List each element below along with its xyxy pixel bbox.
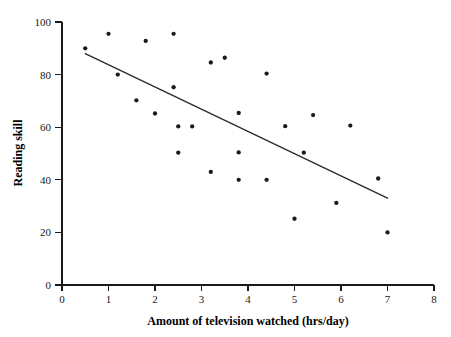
- data-point: [171, 32, 175, 36]
- data-point: [376, 176, 380, 180]
- data-point: [153, 111, 157, 115]
- x-tick-label-1: 1: [106, 293, 112, 305]
- y-tick-label-60: 60: [40, 121, 52, 133]
- y-tick-label-80: 80: [40, 69, 52, 81]
- data-point: [334, 201, 338, 205]
- data-point: [311, 113, 315, 117]
- x-tick-label-7: 7: [385, 293, 391, 305]
- x-tick-label-3: 3: [199, 293, 205, 305]
- plot-canvas: 100 80 60 40 20 0 0 1 2 3 4 5 6: [0, 0, 451, 337]
- data-point: [134, 98, 138, 102]
- y-axis-ticks: [55, 22, 62, 285]
- x-tick-label-2: 2: [152, 293, 158, 305]
- data-point: [385, 230, 389, 234]
- data-point: [283, 124, 287, 128]
- data-point: [171, 85, 175, 89]
- data-point: [237, 150, 241, 154]
- data-point: [302, 151, 306, 155]
- data-point: [176, 124, 180, 128]
- y-axis-title: Reading skill: [11, 119, 25, 187]
- y-axis-tick-labels: 100 80 60 40 20 0: [35, 16, 52, 291]
- x-axis-ticks: [62, 285, 434, 291]
- data-point: [106, 32, 110, 36]
- x-axis-tick-labels: 0 1 2 3 4 5 6 7 8: [59, 293, 437, 305]
- x-tick-label-0: 0: [59, 293, 65, 305]
- data-point: [209, 170, 213, 174]
- data-point: [190, 124, 194, 128]
- y-tick-label-40: 40: [40, 174, 52, 186]
- x-tick-label-4: 4: [245, 293, 251, 305]
- data-point: [264, 178, 268, 182]
- data-point: [209, 60, 213, 64]
- y-tick-label-0: 0: [46, 279, 52, 291]
- y-tick-label-20: 20: [40, 226, 52, 238]
- y-tick-label-100: 100: [35, 16, 52, 28]
- data-point: [348, 123, 352, 127]
- data-point: [176, 151, 180, 155]
- data-point: [223, 56, 227, 60]
- data-point: [237, 178, 241, 182]
- data-point: [264, 71, 268, 75]
- regression-line: [85, 54, 387, 199]
- scatter-plot-figure: 100 80 60 40 20 0 0 1 2 3 4 5 6: [0, 0, 451, 337]
- data-points-group: [83, 32, 390, 235]
- x-tick-label-6: 6: [338, 293, 344, 305]
- data-point: [83, 46, 87, 50]
- x-tick-label-5: 5: [292, 293, 298, 305]
- data-point: [292, 217, 296, 221]
- x-tick-label-8: 8: [431, 293, 437, 305]
- data-point: [144, 39, 148, 43]
- data-point: [237, 111, 241, 115]
- x-axis-title: Amount of television watched (hrs/day): [147, 314, 348, 328]
- data-point: [116, 72, 120, 76]
